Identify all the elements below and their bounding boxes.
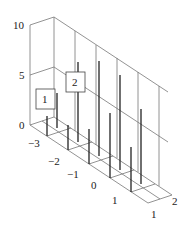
stems-row-1 [47,113,131,192]
axes-box [30,17,172,203]
svg-text:2: 2 [72,76,78,88]
x-tick-0: 0 [91,179,97,191]
stem-3d-chart: 1 2 10 5 0 −3 −2 −1 0 1 1 2 [0,0,184,225]
x-tick-m2: −2 [48,155,60,167]
x-tick-1: 1 [112,194,118,206]
z-tick-5: 5 [19,69,25,81]
z-tick-10: 10 [13,19,25,31]
y-tick-1: 1 [151,208,157,220]
annotation-box-1: 1 [36,89,55,109]
x-tick-m1: −1 [67,168,79,180]
annotation-box-2: 2 [66,72,85,92]
y-tick-2: 2 [172,195,178,207]
z-tick-0: 0 [19,119,25,131]
x-tick-m3: −3 [28,137,40,149]
svg-text:1: 1 [42,93,48,105]
